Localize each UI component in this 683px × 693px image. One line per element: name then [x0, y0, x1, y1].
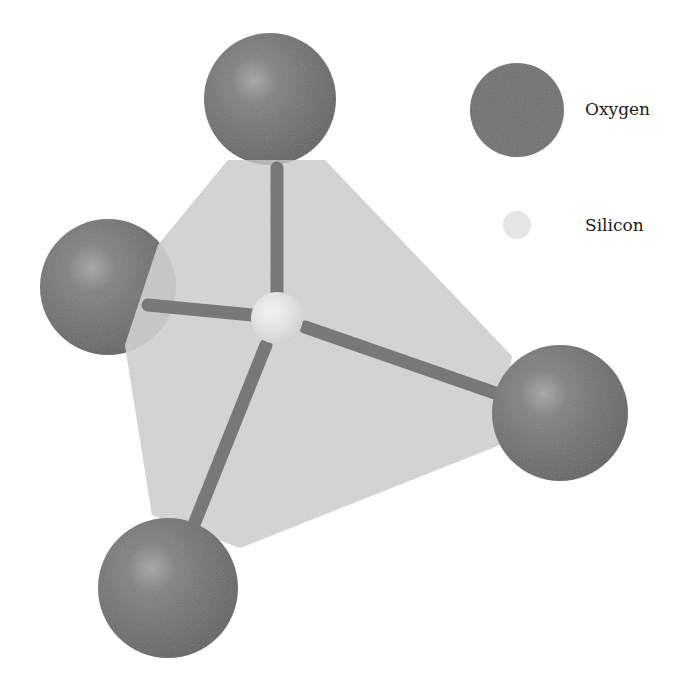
legend — [470, 63, 564, 239]
silicon-oxygen-tetrahedron-diagram — [0, 0, 683, 693]
oxygen-atom-bottom — [98, 518, 238, 658]
legend-oxygen-icon — [470, 63, 564, 157]
tetrahedron-faces — [125, 160, 512, 548]
silicon-atom-center — [251, 292, 303, 344]
legend-label-silicon: Silicon — [585, 217, 644, 234]
legend-silicon-icon — [503, 211, 531, 239]
oxygen-atom-top — [204, 33, 336, 165]
oxygen-atom-right — [492, 345, 628, 481]
legend-label-oxygen: Oxygen — [585, 101, 650, 118]
